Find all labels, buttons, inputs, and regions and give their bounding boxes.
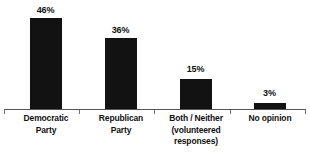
bar-slot-both-neither: 15% — [158, 0, 233, 110]
bar-chart: 46% 36% 15% 3% Democratic Party R — [0, 0, 310, 161]
bar-value-label: 46% — [37, 5, 55, 15]
x-axis-category-labels: Democratic Party Republican Party Both /… — [0, 113, 310, 161]
bar-democratic-party[interactable] — [30, 18, 62, 110]
bar-slot-republican-party: 36% — [83, 0, 158, 110]
bar-both-neither[interactable] — [180, 79, 212, 110]
plot-area: 46% 36% 15% 3% — [0, 0, 310, 110]
bar-slot-no-opinion: 3% — [232, 0, 307, 110]
bar-value-label: 3% — [263, 88, 276, 98]
bar-republican-party[interactable] — [105, 38, 137, 110]
bar-value-label: 15% — [187, 64, 205, 74]
category-label-no-opinion: No opinion — [225, 113, 310, 125]
bar-slot-democratic-party: 46% — [8, 0, 83, 110]
bar-value-label: 36% — [112, 25, 130, 35]
x-axis-line — [4, 109, 306, 110]
category-label-line: No opinion — [225, 113, 310, 125]
category-label-line: responses) — [151, 136, 241, 148]
category-label-line: (volunteered — [151, 125, 241, 137]
